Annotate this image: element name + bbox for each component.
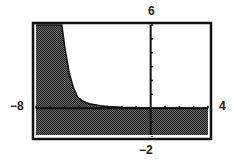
- ymax-label: 6: [148, 4, 155, 18]
- ymin-label: −2: [139, 143, 153, 157]
- xmin-label: −8: [10, 99, 24, 113]
- xmax-label: 4: [219, 99, 226, 113]
- graph-plot: [0, 0, 234, 160]
